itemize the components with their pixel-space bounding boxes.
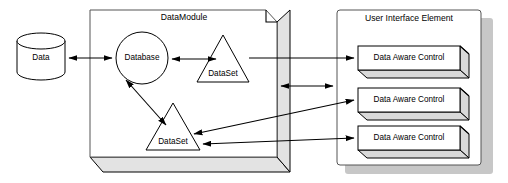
control-3-label: Data Aware Control — [374, 133, 445, 142]
control-2-label: Data Aware Control — [374, 95, 445, 104]
data-aware-control-3[interactable]: Data Aware Control — [358, 126, 469, 158]
control-1-label: Data Aware Control — [374, 53, 445, 62]
control-2-bottom-face — [358, 112, 469, 120]
architecture-diagram: DataModule User Interface Element Data D… — [0, 0, 508, 183]
data-aware-control-2[interactable]: Data Aware Control — [358, 88, 469, 120]
database-label: Database — [124, 53, 159, 62]
data-store-node[interactable]: Data — [17, 33, 65, 80]
datamodule-bottom-extrusion — [90, 157, 290, 172]
datamodule-title: DataModule — [161, 12, 208, 22]
control-3-bottom-face — [358, 150, 469, 158]
diagram-canvas: DataModule User Interface Element Data D… — [0, 0, 508, 183]
data-store-label: Data — [32, 53, 50, 62]
data-cylinder-top — [17, 33, 65, 49]
uie-title: User Interface Element — [365, 13, 453, 23]
control-1-bottom-face — [358, 70, 469, 78]
dataset-lower-label: DataSet — [158, 137, 188, 146]
data-aware-control-1[interactable]: Data Aware Control — [358, 46, 469, 78]
database-node[interactable]: Database — [116, 32, 168, 84]
datamodule-right-extrusion — [277, 10, 290, 172]
dataset-upper-label: DataSet — [208, 69, 238, 78]
